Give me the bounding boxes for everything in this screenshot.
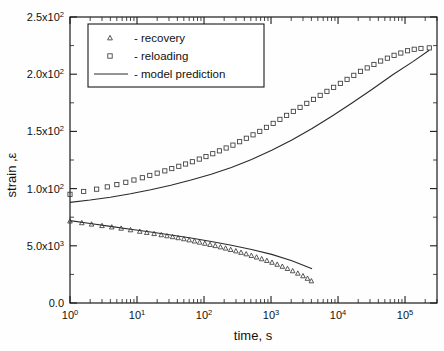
x-tick-label: 104	[330, 308, 346, 321]
data-point-triangle	[208, 242, 213, 246]
x-axis-tick-labels: 100101102103104105	[62, 308, 413, 321]
data-point-square	[217, 149, 221, 153]
data-point-square	[392, 53, 396, 57]
data-point-triangle	[305, 276, 310, 280]
data-point-square	[291, 109, 295, 113]
y-axis-tick-labels: 0.05.0x1031.0x1021.5x1022.0x1022.5x102	[27, 10, 64, 309]
data-point-square	[311, 97, 315, 101]
data-point-triangle	[239, 250, 244, 254]
data-point-square	[318, 93, 322, 97]
data-point-triangle	[254, 255, 259, 259]
data-point-square	[412, 47, 416, 51]
data-point-square	[211, 152, 215, 156]
data-point-triangle	[290, 268, 295, 272]
x-tick-label: 101	[129, 308, 145, 321]
data-point-square	[278, 117, 282, 121]
data-point-square	[379, 59, 383, 63]
data-point-square	[224, 146, 228, 150]
strain-vs-time-plot: 100101102103104105 0.05.0x1031.0x1021.5x…	[0, 0, 444, 351]
data-point-square	[148, 173, 152, 177]
data-point-square	[405, 49, 409, 53]
data-point-square	[177, 164, 181, 168]
y-tick-label: 2.0x102	[27, 67, 64, 80]
x-axis-title: time, s	[234, 328, 273, 343]
data-point-square	[244, 136, 248, 140]
x-tick-label: 102	[196, 308, 212, 321]
data-point-triangle	[203, 241, 208, 245]
data-point-square	[325, 89, 329, 93]
data-point-square	[115, 183, 119, 187]
data-point-square	[183, 162, 187, 166]
data-point-triangle	[270, 260, 275, 264]
data-point-square	[419, 46, 423, 50]
data-point-square	[352, 73, 356, 77]
data-point-square	[163, 169, 167, 173]
x-tick-label: 103	[263, 308, 279, 321]
y-tick-label: 5.0x103	[27, 239, 64, 252]
data-point-triangle	[244, 252, 249, 256]
data-point-triangle	[137, 229, 142, 233]
data-point-triangle	[259, 256, 264, 260]
chart-container: 100101102103104105 0.05.0x1031.0x1021.5x…	[0, 0, 444, 351]
model-prediction-line	[70, 221, 312, 269]
data-point-triangle	[249, 253, 254, 257]
data-point-square	[345, 77, 349, 81]
data-point-square	[132, 178, 136, 182]
y-tick-label: 1.0x102	[27, 182, 64, 195]
data-point-triangle	[275, 262, 280, 266]
data-point-square	[231, 143, 235, 147]
data-point-square	[140, 176, 144, 180]
data-point-square	[358, 69, 362, 73]
data-point-square	[385, 56, 389, 60]
data-point-triangle	[228, 247, 233, 251]
data-point-square	[204, 154, 208, 158]
legend-label: - reloading	[134, 50, 188, 62]
data-point-square	[238, 140, 242, 144]
data-point-square	[105, 185, 109, 189]
y-tick-label: 1.5x102	[27, 124, 64, 137]
data-point-triangle	[280, 264, 285, 268]
data-point-square	[251, 133, 255, 137]
data-point-square	[271, 121, 275, 125]
data-point-square	[427, 46, 431, 50]
data-point-triangle	[223, 246, 228, 250]
legend-label: - model prediction	[134, 68, 225, 80]
data-point-square	[170, 166, 174, 170]
data-point-square	[264, 125, 268, 129]
y-axis-title: strain ,ε	[4, 152, 19, 197]
data-point-square	[124, 180, 128, 184]
data-point-triangle	[197, 240, 202, 244]
data-point-square	[372, 62, 376, 66]
chart-legend: - recovery- reloading- model prediction	[88, 24, 264, 87]
data-point-square	[298, 105, 302, 109]
x-tick-label: 100	[62, 308, 78, 321]
data-point-triangle	[285, 266, 290, 270]
x-tick-label: 105	[397, 308, 413, 321]
data-point-square	[197, 157, 201, 161]
data-point-square	[95, 187, 99, 191]
data-point-square	[399, 51, 403, 55]
data-point-triangle	[213, 243, 218, 247]
legend-label: - recovery	[134, 32, 185, 44]
data-point-square	[305, 101, 309, 105]
y-tick-label: 0.0	[49, 297, 64, 309]
data-point-square	[285, 113, 289, 117]
data-point-square	[82, 189, 86, 193]
data-point-triangle	[309, 279, 314, 283]
data-point-square	[258, 129, 262, 133]
data-point-square	[338, 81, 342, 85]
recovery-data-markers	[68, 219, 314, 283]
y-tick-label: 2.5x102	[27, 10, 64, 23]
data-point-square	[190, 160, 194, 164]
data-point-triangle	[265, 258, 270, 262]
data-point-triangle	[296, 271, 301, 275]
data-point-square	[155, 171, 159, 175]
data-point-triangle	[234, 249, 239, 253]
data-point-square	[332, 85, 336, 89]
data-point-square	[365, 66, 369, 70]
data-point-triangle	[301, 274, 306, 278]
data-point-triangle	[218, 245, 223, 249]
